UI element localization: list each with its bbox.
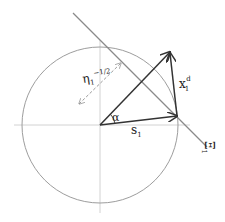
eta-label: η1−1/2: [81, 67, 112, 88]
vector-x1d: [170, 53, 177, 116]
xi1-label: Ξ1: [200, 141, 216, 154]
alpha-label: α: [112, 111, 120, 124]
geometry-diagram: η1−1/2 x1d α s1 Ξ1: [0, 0, 225, 222]
vector-diagonal: [100, 52, 170, 125]
x1d-label-text: x1d: [179, 75, 191, 93]
